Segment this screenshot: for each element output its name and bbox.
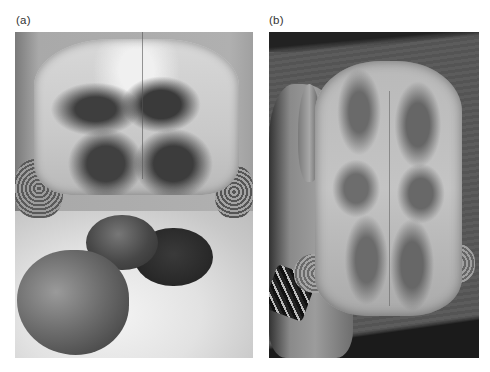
plastron-seam xyxy=(389,91,390,306)
photo-panel-b xyxy=(269,32,479,358)
panel-label-b: (b) xyxy=(269,14,284,26)
photo-panel-a xyxy=(15,32,253,358)
surface-top-edge xyxy=(269,32,479,52)
tortoise-shell xyxy=(34,39,239,195)
prolapsed-mass-large xyxy=(17,250,129,354)
shell-seam xyxy=(142,32,143,179)
panel-label-a: (a) xyxy=(16,14,31,26)
